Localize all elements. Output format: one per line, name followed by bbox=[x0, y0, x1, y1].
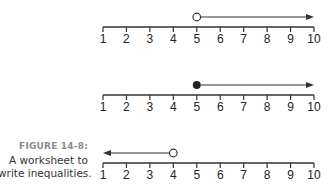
tick-label: 5 bbox=[193, 32, 200, 46]
tick-label: 1 bbox=[100, 168, 107, 182]
tick-label: 7 bbox=[240, 32, 247, 46]
tick-label: 3 bbox=[147, 168, 154, 182]
tick-label: 5 bbox=[193, 100, 200, 114]
tick-label: 7 bbox=[240, 100, 247, 114]
closed-circle-icon bbox=[193, 81, 201, 89]
tick-label: 6 bbox=[217, 100, 224, 114]
tick-label: 10 bbox=[307, 168, 321, 182]
tick-label: 3 bbox=[147, 32, 154, 46]
number-line-3: 12345678910 bbox=[100, 149, 321, 182]
solution-ray bbox=[103, 149, 177, 157]
tick-label: 1 bbox=[100, 32, 107, 46]
number-line-2: 12345678910 bbox=[100, 81, 321, 114]
tick-label: 10 bbox=[307, 100, 321, 114]
arrow-right-icon bbox=[306, 82, 314, 88]
number-lines-diagram: 123456789101234567891012345678910 bbox=[0, 0, 336, 193]
tick-label: 9 bbox=[287, 100, 294, 114]
tick-label: 7 bbox=[240, 168, 247, 182]
tick-label: 6 bbox=[217, 168, 224, 182]
tick-label: 8 bbox=[264, 100, 271, 114]
tick-label: 2 bbox=[123, 100, 130, 114]
solution-ray bbox=[193, 81, 314, 89]
tick-label: 1 bbox=[100, 100, 107, 114]
tick-label: 10 bbox=[307, 32, 321, 46]
number-line-1: 12345678910 bbox=[100, 13, 321, 46]
tick-label: 5 bbox=[193, 168, 200, 182]
tick-label: 4 bbox=[170, 100, 177, 114]
tick-label: 9 bbox=[287, 168, 294, 182]
tick-label: 6 bbox=[217, 32, 224, 46]
tick-label: 8 bbox=[264, 32, 271, 46]
tick-label: 9 bbox=[287, 32, 294, 46]
solution-ray bbox=[193, 13, 314, 21]
arrow-right-icon bbox=[306, 14, 314, 20]
tick-label: 8 bbox=[264, 168, 271, 182]
open-circle-icon bbox=[193, 13, 201, 21]
tick-label: 4 bbox=[170, 168, 177, 182]
tick-label: 3 bbox=[147, 100, 154, 114]
arrow-left-icon bbox=[103, 150, 111, 156]
tick-label: 4 bbox=[170, 32, 177, 46]
tick-label: 2 bbox=[123, 168, 130, 182]
open-circle-icon bbox=[170, 149, 178, 157]
tick-label: 2 bbox=[123, 32, 130, 46]
